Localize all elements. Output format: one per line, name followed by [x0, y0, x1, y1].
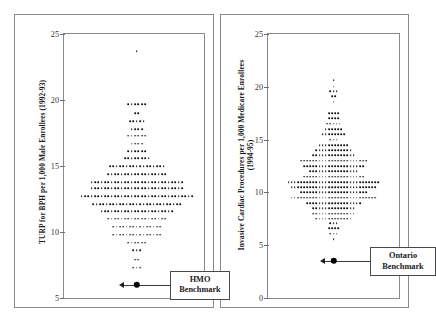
data-point — [119, 234, 121, 236]
data-point — [325, 160, 327, 162]
data-point — [84, 196, 86, 198]
data-point — [333, 139, 335, 141]
data-point — [114, 181, 116, 183]
data-point — [161, 196, 163, 198]
data-point — [138, 181, 140, 183]
data-point — [313, 186, 315, 188]
data-point — [347, 170, 349, 172]
data-point — [319, 170, 321, 172]
data-point — [306, 176, 308, 178]
data-point — [331, 202, 333, 204]
data-point — [325, 186, 327, 188]
data-point — [141, 188, 143, 190]
data-point — [326, 123, 328, 125]
data-point — [316, 202, 318, 204]
data-point — [297, 186, 299, 188]
data-point — [146, 203, 148, 205]
data-point — [107, 218, 109, 220]
data-point — [121, 181, 123, 183]
data-point — [139, 203, 141, 205]
data-point — [121, 210, 123, 212]
data-point — [121, 218, 123, 220]
data-point — [336, 90, 338, 92]
data-point — [180, 203, 182, 205]
data-point — [353, 202, 355, 204]
data-point — [328, 176, 330, 178]
data-point — [337, 128, 339, 130]
y-tick — [264, 87, 269, 88]
data-point — [353, 181, 355, 183]
data-point — [306, 160, 308, 162]
data-point — [337, 192, 339, 194]
data-point — [174, 196, 176, 198]
data-point — [322, 181, 324, 183]
data-point — [133, 250, 135, 252]
data-point — [126, 203, 128, 205]
data-point — [149, 203, 151, 205]
data-point — [114, 173, 116, 175]
data-point — [111, 173, 113, 175]
data-point — [319, 197, 321, 199]
data-point — [154, 210, 156, 212]
data-point — [136, 203, 138, 205]
data-point — [146, 165, 148, 167]
data-point — [94, 188, 96, 190]
data-point — [153, 226, 155, 228]
y-tick — [60, 166, 65, 167]
data-point — [148, 218, 150, 220]
data-point — [328, 112, 330, 114]
data-point — [309, 186, 311, 188]
data-point — [128, 135, 130, 137]
data-point — [309, 181, 311, 183]
data-point — [350, 213, 352, 215]
data-point — [325, 149, 327, 151]
data-point — [350, 197, 352, 199]
data-point — [148, 196, 150, 198]
data-point — [330, 123, 332, 125]
data-point — [134, 143, 136, 145]
data-point — [114, 188, 116, 190]
data-point — [347, 144, 349, 146]
data-point — [114, 196, 116, 198]
data-point — [87, 196, 89, 198]
data-point — [344, 133, 346, 135]
data-point — [344, 197, 346, 199]
y-tick — [264, 192, 269, 193]
data-point — [303, 197, 305, 199]
data-point — [168, 181, 170, 183]
data-point — [356, 176, 358, 178]
data-point — [371, 181, 373, 183]
data-point — [331, 133, 333, 135]
data-point — [362, 165, 364, 167]
data-point — [331, 160, 333, 162]
data-point — [313, 213, 315, 215]
data-point — [313, 202, 315, 204]
data-point — [309, 197, 311, 199]
data-point — [133, 203, 135, 205]
data-point — [306, 186, 308, 188]
data-point — [123, 165, 125, 167]
data-point — [316, 160, 318, 162]
data-point — [148, 210, 150, 212]
data-point — [113, 165, 115, 167]
data-point — [344, 176, 346, 178]
data-point — [333, 101, 335, 103]
data-point — [113, 203, 115, 205]
data-point — [316, 218, 318, 220]
data-point — [328, 128, 330, 130]
data-point — [362, 186, 364, 188]
data-point — [344, 192, 346, 194]
data-point — [138, 135, 140, 137]
data-point — [181, 188, 183, 190]
data-point — [164, 173, 166, 175]
data-point — [123, 203, 125, 205]
plot-area-left: 510152025HMO Benchmark — [63, 33, 205, 299]
data-point — [134, 151, 136, 153]
data-point — [337, 207, 339, 209]
y-tick-label: 10 — [51, 228, 59, 237]
data-point — [331, 112, 333, 114]
data-point — [362, 197, 364, 199]
data-point — [337, 118, 339, 120]
data-point — [337, 133, 339, 135]
data-point — [328, 155, 330, 157]
